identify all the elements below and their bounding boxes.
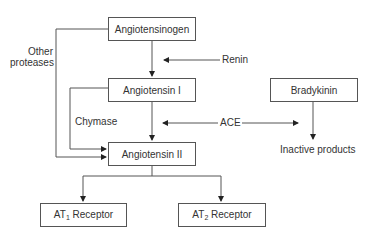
node-angiotensin-ii: Angiotensin II [108,142,196,166]
label-ace: ACE [220,117,241,129]
node-angiotensinogen: Angiotensinogen [108,17,196,41]
at2-suffix: Receptor [208,209,251,220]
arrow-to-at1 [83,165,152,201]
at2-prefix: AT [192,209,204,220]
node-label: AT2 Receptor [192,209,251,221]
label-chymase: Chymase [75,116,117,128]
at1-prefix: AT [54,209,66,220]
arrow-to-at2 [152,176,221,201]
label-renin: Renin [222,54,248,66]
node-label: Angiotensin I [123,85,181,96]
node-at1-receptor: AT1 Receptor [40,203,127,227]
arrow-other-proteases [56,29,108,157]
node-label: Angiotensin II [122,149,183,160]
node-label: AT1 Receptor [54,209,113,221]
label-proteases: proteases [10,57,52,69]
at1-suffix: Receptor [70,209,113,220]
node-label: Angiotensinogen [115,24,190,35]
node-angiotensin-i: Angiotensin I [108,78,196,102]
node-label: Bradykinin [291,85,338,96]
node-at2-receptor: AT2 Receptor [178,203,266,227]
node-inactive-products: Inactive products [280,144,356,156]
node-bradykinin: Bradykinin [270,78,358,102]
